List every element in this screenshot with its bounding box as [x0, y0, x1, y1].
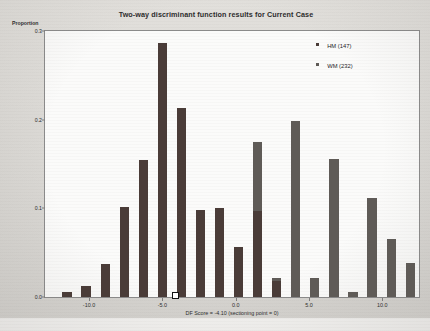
x-tick-label: -10.0	[83, 302, 95, 308]
chart-bar	[215, 208, 224, 297]
chart-title: Two-way discriminant function results fo…	[10, 10, 422, 19]
legend-swatch-icon	[316, 63, 319, 66]
chart-bar	[310, 278, 319, 298]
y-tick-label: 0.3	[35, 28, 45, 34]
y-tick-label: 0.0	[35, 294, 45, 300]
chart-bar	[253, 211, 262, 297]
x-tick-mark	[382, 298, 383, 301]
y-axis-title: Proportion	[12, 20, 39, 26]
x-tick-label: 0.0	[232, 302, 240, 308]
chart-bar	[329, 159, 338, 297]
x-tick-mark	[309, 298, 310, 301]
chart-bar	[158, 43, 167, 297]
chart-bar	[81, 286, 90, 297]
x-tick-mark	[89, 298, 90, 301]
x-tick-mark	[162, 298, 163, 301]
chart-bar	[101, 264, 110, 297]
x-tick-mark	[236, 298, 237, 301]
x-tick-label: 5.0	[305, 302, 313, 308]
legend-label-hm: HM (147)	[327, 43, 351, 49]
chart-bar	[62, 292, 71, 297]
legend-swatch-icon	[316, 43, 319, 46]
scan-bottom-margin	[0, 318, 430, 331]
chart-bar	[120, 207, 129, 297]
legend-label-wm: WM (232)	[327, 63, 352, 69]
chart-legend: HM (147) WM (232)	[316, 36, 416, 76]
chart-bar	[291, 121, 300, 297]
x-tick-label: 10.0	[377, 302, 388, 308]
chart-bar	[196, 210, 205, 297]
chart-bar	[177, 108, 186, 297]
chart-bar	[387, 239, 396, 297]
chart-bar	[367, 198, 376, 297]
chart-bar	[139, 160, 148, 297]
chart-bar	[234, 247, 243, 297]
x-tick-label: -5.0	[158, 302, 167, 308]
legend-item-wm: WM (232)	[316, 56, 416, 76]
sectioning-point-marker	[172, 292, 179, 299]
screenshot-root: Two-way discriminant function results fo…	[0, 0, 430, 331]
legend-item-hm: HM (147)	[316, 36, 416, 56]
chart-bar	[348, 292, 357, 297]
y-tick-label: 0.2	[35, 117, 45, 123]
y-tick-label: 0.1	[35, 205, 45, 211]
x-axis-title: DF Score = -4.10 (sectioning point = 0)	[44, 310, 420, 316]
chart-bar	[272, 281, 281, 297]
chart-bar	[406, 263, 415, 297]
chart-panel: Two-way discriminant function results fo…	[10, 6, 422, 317]
